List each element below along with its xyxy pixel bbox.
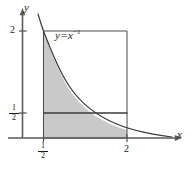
plot-canvas [0,0,190,173]
math-figure: y x y=x−1 2 1 2 1 2 2 [0,0,190,173]
y-tick-label-one-half-numerator: 1 [9,104,19,112]
y-axis-label: y [24,2,29,13]
x-tick-label-one-half: 1 2 [38,142,48,160]
curve-equation-exponent: −1 [73,28,80,36]
y-tick-label-one-half: 1 2 [9,104,19,122]
x-tick-label-2: 2 [124,144,129,154]
curve-equation-label: y=x−1 [55,30,80,41]
curve-equation-operator: = [60,29,68,41]
x-tick-label-one-half-numerator: 1 [38,142,48,150]
y-tick-label-one-half-denominator: 2 [9,114,19,122]
y-tick-label-2: 2 [10,25,15,35]
x-axis-label: x [177,129,182,140]
x-tick-label-one-half-denominator: 2 [38,152,48,160]
area-under-curve-shading [44,31,128,138]
